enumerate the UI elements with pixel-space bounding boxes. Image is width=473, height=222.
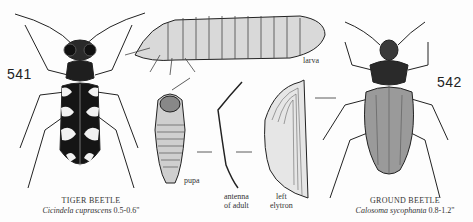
label-elytron-line2: elytron [270, 201, 293, 210]
figure-number-541: 541 [7, 66, 32, 82]
label-larva: larva [303, 56, 319, 65]
caption-size: 0.5-0.6" [114, 206, 140, 215]
larva-illustration [125, 16, 325, 90]
label-pupa: pupa [184, 176, 200, 185]
label-antenna-line2: of adult [224, 201, 249, 210]
caption-scientific-name: Calosoma sycophanta [356, 206, 427, 215]
antenna-illustration [218, 82, 252, 188]
figure-number-542: 542 [437, 74, 462, 90]
label-antenna-line1: antenna [224, 192, 249, 201]
caption-size: 0.8-1.2" [428, 206, 454, 215]
caption-common-name: GROUND BEETLE [345, 196, 465, 206]
pupa-illustration [155, 94, 212, 183]
elytron-illustration [265, 80, 336, 198]
caption-common-name: TIGER BEETLE [36, 196, 146, 206]
illustration-plate: 541 542 larva pupa antenna of adult left… [0, 0, 473, 222]
label-antenna: antenna of adult [224, 192, 249, 210]
label-elytron: left elytron [270, 192, 293, 210]
plate-artwork [0, 0, 473, 222]
caption-ground-beetle: GROUND BEETLE Calosoma sycophanta 0.8-1.… [345, 196, 465, 216]
caption-scientific-name: Cicindela cuprascens [42, 206, 111, 215]
tiger-beetle-illustration [15, 13, 145, 188]
label-elytron-line1: left [270, 192, 293, 201]
ground-beetle-illustration [323, 22, 448, 198]
caption-tiger-beetle: TIGER BEETLE Cicindela cuprascens 0.5-0.… [36, 196, 146, 216]
